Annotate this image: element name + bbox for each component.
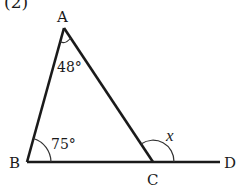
problem-label: (2) — [4, 0, 28, 12]
vertex-label-c: C — [147, 171, 158, 189]
angle-arc-b — [34, 139, 52, 163]
vertex-label-a: A — [56, 8, 68, 26]
side-ac — [64, 28, 153, 162]
vertex-label-d: D — [224, 154, 236, 172]
angle-label-x: x — [165, 126, 174, 145]
triangle-diagram: (2) A B C D 48° 75° x — [0, 0, 237, 194]
vertex-label-b: B — [9, 154, 20, 172]
angle-label-b: 75° — [51, 136, 76, 152]
angle-label-a: 48° — [57, 59, 82, 75]
